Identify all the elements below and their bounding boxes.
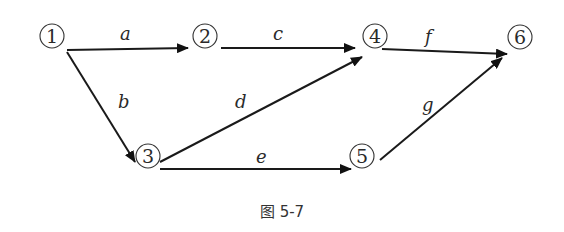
edge-label-c: c	[273, 23, 283, 44]
node-4: 4	[363, 24, 387, 48]
edge-a	[67, 48, 188, 50]
edge-f	[382, 49, 507, 54]
edge-label-g: g	[422, 94, 434, 115]
edge-label-d: d	[235, 91, 247, 112]
node-3: 3	[136, 144, 160, 168]
svg-text:4: 4	[369, 25, 381, 47]
node-5: 5	[350, 144, 374, 168]
edge-label-a: a	[120, 23, 131, 44]
svg-text:6: 6	[514, 26, 526, 48]
edge-label-e: e	[256, 146, 267, 167]
svg-text:2: 2	[199, 25, 211, 47]
edge-g	[380, 58, 502, 160]
edge-label-b: b	[118, 91, 130, 112]
network-diagram: a b c d e f g 1 2 3 4 5 6 图 5-7	[0, 0, 564, 232]
edge-label-f: f	[423, 26, 435, 47]
node-6: 6	[508, 25, 532, 49]
node-2: 2	[193, 24, 217, 48]
node-1: 1	[40, 24, 64, 48]
figure-caption: 图 5-7	[260, 203, 304, 221]
svg-text:3: 3	[142, 145, 154, 167]
svg-text:1: 1	[46, 25, 58, 47]
svg-text:5: 5	[356, 145, 368, 167]
